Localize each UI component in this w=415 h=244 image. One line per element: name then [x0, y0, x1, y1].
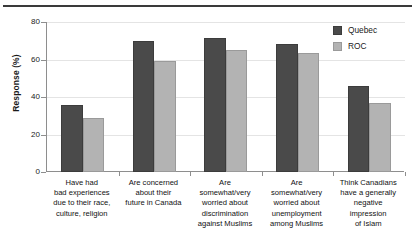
x-axis-category-label: Have hadbad experiencesdue to their race…	[42, 178, 122, 219]
bar-group	[190, 22, 262, 172]
y-axis-ticks	[0, 0, 46, 244]
bar-quebec	[61, 105, 83, 173]
bar-roc	[154, 61, 176, 172]
x-axis-category-label: Are concernedabout theirfuture in Canada	[114, 178, 194, 209]
legend-swatch-quebec-icon	[333, 26, 342, 35]
x-axis-category-label: Aresomewhat/veryworried aboutdiscriminat…	[185, 178, 265, 229]
bar-quebec	[133, 41, 155, 172]
category-label-line: about their	[114, 188, 194, 198]
y-axis-tick-mark	[41, 22, 46, 23]
y-axis-tick-mark	[41, 135, 46, 136]
y-axis-tick-mark	[41, 97, 46, 98]
category-label-line: bad experiences	[42, 188, 122, 198]
category-label-line: worried about	[257, 198, 337, 208]
bar-roc	[226, 50, 248, 172]
y-axis-tick-mark	[41, 60, 46, 61]
bar-chart-figure: Response (%) Quebec ROC 020406080Have ha…	[0, 0, 415, 244]
y-axis-tick-label: 80	[10, 18, 40, 26]
x-axis-tick-mark	[190, 172, 191, 176]
category-label-line: Are	[185, 178, 265, 188]
bar-roc	[298, 53, 320, 172]
y-axis-tick-label: 40	[10, 93, 40, 101]
legend-swatch-roc-icon	[333, 42, 342, 51]
category-label-line: against Muslims	[185, 219, 265, 229]
legend-item-roc: ROC	[333, 40, 403, 53]
category-label-line: negative	[328, 198, 408, 208]
x-axis-category-label: Think Canadianshave a generallynegativei…	[328, 178, 408, 229]
y-axis-tick-mark	[41, 172, 46, 173]
category-label-line: unemployment	[257, 209, 337, 219]
x-axis-tick-mark	[405, 172, 406, 176]
y-axis-tick-label: 60	[10, 56, 40, 64]
category-label-line: somewhat/very	[185, 188, 265, 198]
y-axis-tick-label: 0	[10, 168, 40, 176]
top-divider-rule	[3, 5, 412, 7]
category-label-line: due to their race,	[42, 198, 122, 208]
category-label-line: Have had	[42, 178, 122, 188]
category-label-line: impression	[328, 209, 408, 219]
category-label-line: among Muslims	[257, 219, 337, 229]
bar-roc	[83, 118, 105, 172]
bar-quebec	[348, 86, 370, 172]
category-label-line: future in Canada	[114, 198, 194, 208]
bar-quebec	[204, 38, 226, 172]
bar-group	[47, 22, 119, 172]
category-label-line: have a generally	[328, 188, 408, 198]
bar-group	[119, 22, 191, 172]
bar-group	[262, 22, 334, 172]
legend-label-roc: ROC	[348, 42, 366, 51]
y-axis-tick-label: 20	[10, 131, 40, 139]
x-axis-tick-mark	[262, 172, 263, 176]
x-axis-tick-mark	[119, 172, 120, 176]
category-label-line: discrimination	[185, 209, 265, 219]
legend-label-quebec: Quebec	[348, 26, 377, 35]
category-label-line: worried about	[185, 198, 265, 208]
category-label-line: somewhat/very	[257, 188, 337, 198]
category-label-line: Think Canadians	[328, 178, 408, 188]
bar-roc	[369, 103, 391, 172]
x-axis-category-label: Aresomewhat/veryworried aboutunemploymen…	[257, 178, 337, 229]
category-label-line: Are	[257, 178, 337, 188]
legend-item-quebec: Quebec	[333, 24, 403, 37]
bar-quebec	[276, 44, 298, 172]
category-label-line: culture, religion	[42, 209, 122, 219]
category-label-line: of Islam	[328, 219, 408, 229]
x-axis-tick-mark	[333, 172, 334, 176]
category-label-line: Are concerned	[114, 178, 194, 188]
chart-legend: Quebec ROC	[333, 24, 403, 56]
